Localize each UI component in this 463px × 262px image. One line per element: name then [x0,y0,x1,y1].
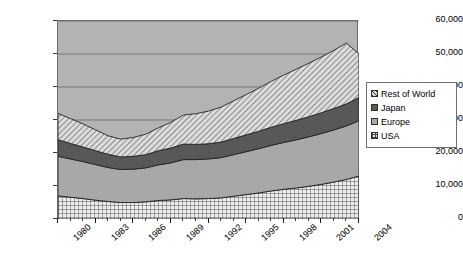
x-axis-minor-tick [157,218,158,221]
legend-item-usa[interactable]: USA [371,129,452,142]
chart-legend: Rest of World Japan Europe USA [366,82,457,148]
x-axis-minor-tick [145,218,146,221]
y-axis-tick-label: 60,000 [415,15,463,24]
x-axis-minor-tick [220,218,221,221]
rest-of-world-swatch [371,90,378,97]
stacked-area-plot [58,21,359,219]
y-axis-tick-label: 10,000 [415,180,463,189]
x-axis-minor-tick [308,218,309,221]
legend-label: USA [381,131,400,141]
europe-swatch [371,118,378,125]
x-axis-minor-tick [182,218,183,221]
legend-label: Japan [381,103,406,113]
chart-container: 010,00020,00030,00040,00050,00060,000 19… [0,0,463,262]
x-axis-minor-tick [107,218,108,221]
legend-item-japan[interactable]: Japan [371,101,452,114]
x-axis-minor-tick [70,218,71,221]
x-axis-tick-label: 1980 [71,222,93,243]
x-axis-minor-tick [195,218,196,221]
legend-item-europe[interactable]: Europe [371,115,452,128]
x-axis-minor-tick [333,218,334,221]
y-axis-tick-label: 50,000 [415,48,463,57]
plot-area [57,20,358,218]
x-axis-tick-label: 1989 [184,222,206,243]
usa-swatch [371,132,378,139]
y-axis-tick-label: 20,000 [415,147,463,156]
y-axis-tick-label: 0 [415,213,463,222]
x-axis-minor-tick [295,218,296,221]
x-axis-labels: 198019831986198919921995199820012004 [0,222,463,262]
x-axis-minor-tick [120,218,121,221]
x-axis-tick-label: 2001 [335,222,357,243]
japan-swatch [371,104,378,111]
legend-label: Europe [381,117,410,127]
area-series-group [58,43,359,219]
x-axis-minor-tick [258,218,259,221]
x-axis-tick-label: 1986 [146,222,168,243]
x-axis-tick-label: 1995 [259,222,281,243]
legend-item-rest-of-world[interactable]: Rest of World [371,87,452,100]
legend-label: Rest of World [381,89,435,99]
x-axis-tick-label: 1983 [109,222,131,243]
x-axis-minor-tick [270,218,271,221]
x-axis-minor-tick [82,218,83,221]
x-axis-minor-tick [233,218,234,221]
x-axis-tick-label: 1992 [222,222,244,243]
x-axis-tick-label: 1998 [297,222,319,243]
x-axis-tick-label: 2004 [372,222,394,243]
x-axis-minor-tick [345,218,346,221]
